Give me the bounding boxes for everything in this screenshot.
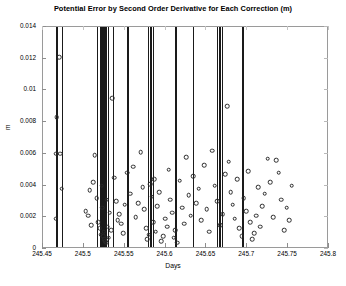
data-point-marker bbox=[233, 217, 238, 222]
data-point-marker bbox=[91, 180, 96, 185]
data-point-marker bbox=[100, 205, 105, 210]
data-point-marker bbox=[88, 188, 93, 193]
y-tick-text: 0.012 bbox=[20, 54, 36, 61]
y-tick-text: 0.002 bbox=[20, 212, 36, 219]
data-point-marker bbox=[153, 229, 158, 234]
data-point-marker bbox=[244, 209, 249, 214]
data-point-marker bbox=[53, 217, 58, 222]
data-point-marker bbox=[99, 183, 104, 188]
data-point-marker bbox=[112, 175, 117, 180]
x-tick-mark-top bbox=[165, 26, 166, 30]
data-point-marker bbox=[163, 217, 168, 222]
data-point-marker bbox=[108, 210, 113, 215]
data-point-marker bbox=[159, 239, 164, 244]
data-point-marker bbox=[260, 204, 265, 209]
x-tick-mark-top bbox=[287, 26, 288, 30]
x-tick-mark-top bbox=[246, 26, 247, 30]
data-point-marker bbox=[161, 234, 166, 239]
data-point-marker bbox=[166, 167, 171, 172]
data-point-marker bbox=[227, 159, 232, 164]
data-point-marker bbox=[86, 213, 91, 218]
data-point-marker bbox=[202, 163, 207, 168]
chart-figure: Potential Error by Second Order Derivati… bbox=[0, 0, 346, 286]
data-point-marker bbox=[235, 177, 240, 182]
y-tick-text: 0.01 bbox=[24, 85, 36, 92]
x-tick-mark bbox=[287, 243, 288, 248]
data-point-marker bbox=[55, 115, 60, 120]
data-point-marker bbox=[263, 191, 268, 196]
data-point-marker bbox=[89, 223, 94, 228]
data-point-marker bbox=[155, 204, 160, 209]
x-tick-mark-top bbox=[124, 26, 125, 30]
correction-vline bbox=[153, 27, 154, 247]
data-point-marker bbox=[165, 225, 170, 230]
y-tick-text: 0.004 bbox=[20, 181, 36, 188]
y-tick-text: 0.006 bbox=[20, 149, 36, 156]
data-point-marker bbox=[110, 96, 115, 101]
x-tick-mark bbox=[205, 243, 206, 248]
data-point-marker bbox=[147, 232, 152, 237]
data-point-marker bbox=[121, 231, 126, 236]
correction-vline bbox=[176, 27, 177, 247]
correction-vline bbox=[151, 27, 152, 247]
y-tick-mark bbox=[42, 248, 46, 249]
data-point-marker bbox=[92, 153, 97, 158]
data-point-marker bbox=[133, 215, 138, 220]
data-point-marker bbox=[149, 194, 154, 199]
data-point-marker bbox=[250, 237, 255, 242]
data-point-marker bbox=[265, 156, 270, 161]
data-point-marker bbox=[225, 104, 230, 109]
data-point-marker bbox=[175, 240, 180, 245]
data-point-marker bbox=[104, 198, 109, 203]
x-tick-text: 245.75 bbox=[277, 250, 297, 257]
data-point-marker bbox=[109, 228, 114, 233]
data-point-marker bbox=[117, 212, 122, 217]
x-tick-mark-top bbox=[83, 26, 84, 30]
data-point-marker bbox=[136, 201, 141, 206]
data-point-marker bbox=[114, 199, 119, 204]
data-point-marker bbox=[104, 240, 109, 245]
data-point-marker bbox=[151, 220, 156, 225]
data-point-marker bbox=[123, 202, 128, 207]
correction-vline bbox=[106, 27, 107, 247]
correction-vline bbox=[62, 27, 63, 247]
data-point-marker bbox=[199, 218, 204, 223]
data-point-marker bbox=[210, 148, 215, 153]
chart-title: Potential Error by Second Order Derivati… bbox=[0, 4, 346, 13]
data-point-marker bbox=[230, 202, 235, 207]
x-tick-mark bbox=[165, 243, 166, 248]
y-tick-mark bbox=[42, 185, 46, 186]
data-point-marker bbox=[215, 199, 220, 204]
data-point-marker bbox=[254, 213, 259, 218]
data-point-marker bbox=[282, 228, 287, 233]
x-tick-mark-top bbox=[328, 26, 329, 30]
data-point-marker bbox=[119, 221, 124, 226]
data-point-marker bbox=[125, 171, 130, 176]
data-point-marker bbox=[189, 213, 194, 218]
correction-vline bbox=[243, 27, 244, 247]
y-axis-label: m bbox=[4, 125, 11, 131]
data-point-marker bbox=[106, 236, 111, 241]
x-tick-text: 245.8 bbox=[320, 250, 336, 257]
data-point-marker bbox=[128, 191, 133, 196]
data-point-marker bbox=[196, 186, 201, 191]
data-point-marker bbox=[171, 236, 176, 241]
data-point-marker bbox=[268, 180, 273, 185]
data-point-marker bbox=[168, 198, 173, 203]
y-tick-mark-right bbox=[324, 185, 328, 186]
data-point-marker bbox=[184, 155, 189, 160]
data-point-marker bbox=[242, 196, 247, 201]
x-tick-mark bbox=[328, 243, 329, 248]
data-point-marker bbox=[144, 226, 149, 231]
data-point-marker bbox=[180, 205, 185, 210]
data-point-marker bbox=[274, 158, 279, 163]
y-tick-mark-right bbox=[324, 248, 328, 249]
y-tick-mark bbox=[42, 58, 46, 59]
x-tick-mark bbox=[124, 243, 125, 248]
data-point-marker bbox=[284, 205, 289, 210]
x-tick-mark bbox=[83, 243, 84, 248]
data-point-marker bbox=[220, 212, 225, 217]
data-point-marker bbox=[228, 190, 233, 195]
data-point-marker bbox=[58, 152, 63, 157]
x-tick-text: 245.5 bbox=[75, 250, 91, 257]
